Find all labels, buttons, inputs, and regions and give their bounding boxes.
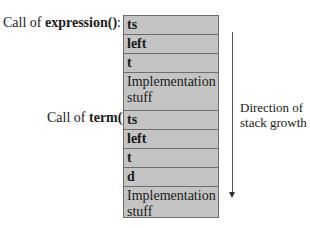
direction-line-1: Direction of [240,100,307,115]
label-prefix: Call of [47,110,89,125]
stack-frame-cell: left [124,35,218,54]
call-stack: ts left t Implementation stuff ts left t… [123,15,219,218]
stack-growth-arrow-line [232,32,233,194]
term-call-label: Call of term(): [47,110,131,126]
label-prefix: Call of [3,15,45,30]
arrow-down-icon [229,192,235,198]
stack-frame-cell: left [124,130,218,149]
stack-frame-cell: Implementation stuff [124,187,218,217]
direction-label: Direction of stack growth [240,100,307,130]
stack-frame-cell: ts [124,16,218,35]
stack-frame-cell: t [124,54,218,73]
stack-frame-cell: ts [124,111,218,130]
expression-call-label: Call of expression(): [3,15,121,31]
function-name: expression() [45,15,117,30]
stack-frame-cell: t [124,149,218,168]
label-suffix: : [117,15,121,30]
direction-line-2: stack growth [240,115,307,130]
stack-frame-cell: Implementation stuff [124,73,218,111]
stack-frame-cell: d [124,168,218,187]
function-name: term() [89,110,127,125]
